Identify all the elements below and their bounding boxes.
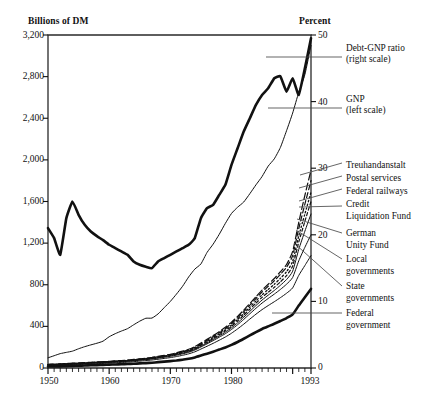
series-line-postal-services [48,181,311,365]
chart-figure: Billions of DM Percent 3,200 2,800 2,400… [0,0,445,400]
leader-state-governments [294,243,342,286]
legend-leader-lines [266,57,342,313]
data-series [48,38,311,366]
plot-canvas [0,0,445,400]
series-line-debt-gnp-ratio-right-scale [48,38,311,268]
leader-postal-services [299,176,342,188]
series-line-gnp-left-scale [48,45,311,357]
series-line-treuhandanstalt [48,170,311,364]
leader-treuhandanstalt [300,163,342,175]
leader-local-governments [296,230,342,259]
leader-credit-liquidation-fund [299,206,342,207]
series-line-federal-railways [48,192,311,365]
series-line-state-governments [48,256,311,366]
